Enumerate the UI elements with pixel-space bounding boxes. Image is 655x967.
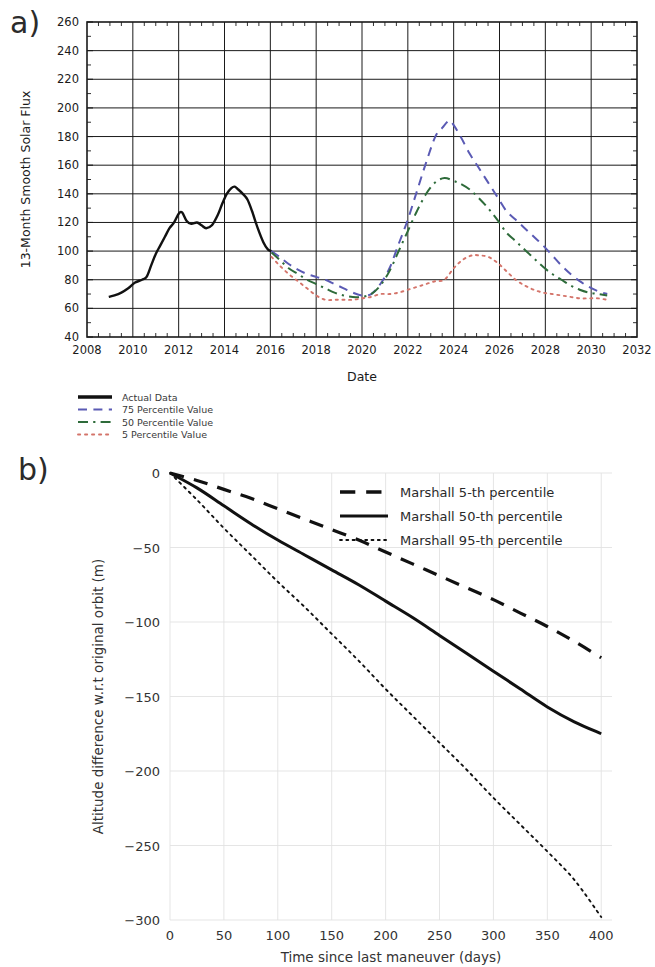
chart-a-tick-labels: 4060801001201401601802002202402602008201… [57,15,652,357]
svg-text:2028: 2028 [531,343,560,357]
chart-a-xlabel: Date [347,369,377,384]
chart-b-legend: Marshall 5-th percentileMarshall 50-th p… [340,485,563,548]
chart-a-legend: Actual Data75 Percentile Value50 Percent… [78,392,213,441]
svg-text:2012: 2012 [164,343,193,357]
svg-text:2010: 2010 [118,343,147,357]
svg-text:2022: 2022 [393,343,422,357]
altitude-decay-chart-svg: 0−50−100−150−200−250−3000501001502002503… [0,445,655,967]
svg-text:−300: −300 [124,913,160,928]
legend-a-label-1: 75 Percentile Value [122,404,213,415]
legend-a-label-0: Actual Data [122,392,177,403]
legend-b-label-2: Marshall 95-th percentile [400,533,563,548]
svg-text:250: 250 [427,928,452,943]
svg-text:−250: −250 [124,839,160,854]
svg-text:−200: −200 [124,764,160,779]
svg-text:140: 140 [57,187,79,201]
legend-b-label-1: Marshall 50-th percentile [400,509,563,524]
svg-text:180: 180 [57,130,79,144]
svg-text:0: 0 [152,466,160,481]
legend-a-label-3: 5 Percentile Value [122,429,207,440]
svg-text:120: 120 [57,215,79,229]
svg-text:40: 40 [64,330,79,344]
chart-a-gridlines [87,22,637,337]
svg-text:2020: 2020 [347,343,376,357]
svg-text:0: 0 [166,928,174,943]
solar-flux-chart-svg: 4060801001201401601802002202402602008201… [0,0,655,445]
solar-flux-chart: 4060801001201401601802002202402602008201… [0,0,655,445]
svg-text:2030: 2030 [577,343,606,357]
svg-text:160: 160 [57,158,79,172]
chart-a-series-group [109,121,607,300]
svg-text:60: 60 [64,301,79,315]
svg-text:2026: 2026 [485,343,514,357]
chart-b-xlabel: Time since last maneuver (days) [280,949,502,965]
chart-b-ylabel: Altitude difference w.r.t original orbit… [90,559,106,835]
svg-text:150: 150 [319,928,344,943]
svg-text:−100: −100 [124,615,160,630]
svg-text:−150: −150 [124,690,160,705]
legend-b-label-0: Marshall 5-th percentile [400,485,554,500]
svg-text:400: 400 [589,928,614,943]
svg-text:2008: 2008 [72,343,101,357]
svg-text:−50: −50 [133,541,160,556]
svg-text:220: 220 [57,72,79,86]
svg-text:200: 200 [57,101,79,115]
svg-text:240: 240 [57,44,79,58]
legend-a-label-2: 50 Percentile Value [122,417,213,428]
svg-text:2032: 2032 [622,343,651,357]
svg-text:2024: 2024 [439,343,468,357]
chart-a-ylabel: 13-Month Smooth Solar Flux [18,91,33,269]
svg-text:50: 50 [216,928,233,943]
svg-text:2014: 2014 [210,343,239,357]
svg-text:80: 80 [64,273,79,287]
svg-text:2018: 2018 [302,343,331,357]
svg-text:100: 100 [57,244,79,258]
svg-text:350: 350 [535,928,560,943]
svg-text:300: 300 [481,928,506,943]
altitude-decay-chart: 0−50−100−150−200−250−3000501001502002503… [0,445,655,967]
chart-a-series-1 [271,121,607,296]
svg-text:2016: 2016 [256,343,285,357]
svg-text:200: 200 [373,928,398,943]
svg-text:260: 260 [57,15,79,29]
svg-text:100: 100 [265,928,290,943]
